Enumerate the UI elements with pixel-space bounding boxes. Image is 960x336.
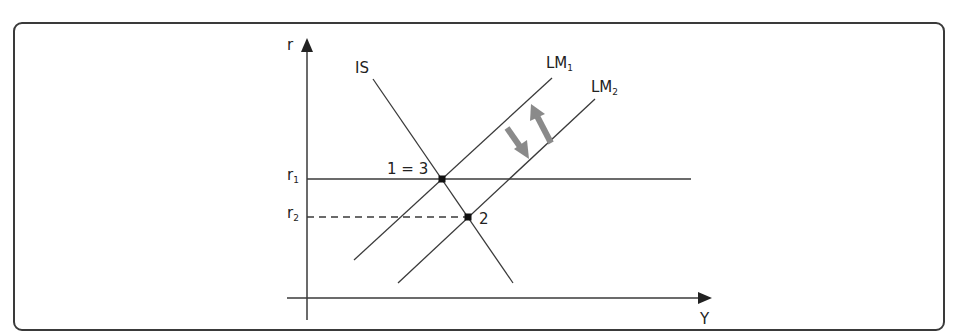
point-2-label: 2 [479, 212, 489, 227]
point-2-marker [465, 214, 472, 221]
r2-label-subscript: 2 [293, 213, 299, 223]
lm2-label: LM2 [591, 80, 618, 97]
point-1-3-marker [439, 176, 446, 183]
lm2-label-subscript: 2 [612, 87, 618, 97]
y-axis-arrow-icon [301, 38, 313, 52]
y-axis-label: r [287, 38, 293, 53]
r1-label: r1 [287, 168, 299, 185]
lm2-label-text: LM [591, 78, 612, 96]
shift-arrow-up-icon [530, 104, 551, 143]
lm1-label: LM1 [546, 56, 573, 73]
lm1-curve [354, 78, 552, 260]
is-lm-diagram [0, 0, 960, 336]
lm1-label-subscript: 1 [567, 63, 573, 73]
shift-arrow-down-icon [507, 128, 529, 159]
x-axis-arrow-icon [698, 292, 712, 304]
x-axis-label: Y [700, 312, 709, 327]
is-label: IS [355, 61, 369, 76]
lm1-label-text: LM [546, 54, 567, 72]
r1-label-subscript: 1 [293, 175, 299, 185]
lm2-curve [398, 99, 595, 283]
r2-label: r2 [287, 206, 299, 223]
point-1-3-label: 1 = 3 [387, 162, 428, 177]
